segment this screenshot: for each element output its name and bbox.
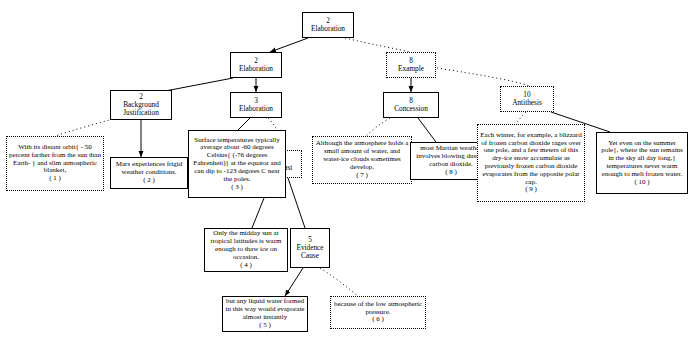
edge-background-to-leaf1 bbox=[56, 118, 116, 136]
leaf-node-1[interactable]: With its distant orbit{ - 50 percent far… bbox=[6, 136, 104, 191]
edge-elab3-to-leaf3 bbox=[238, 118, 250, 130]
node-concession-8[interactable]: 8 Concession bbox=[383, 92, 439, 118]
node-label: Elaboration bbox=[311, 25, 345, 33]
edge-evidence-to-leaf6 bbox=[320, 268, 358, 296]
leaf-text: Surface temperatures typically average a… bbox=[191, 137, 283, 184]
leaf-text: Each winter, for example, a blizzard of … bbox=[480, 132, 582, 187]
leaf-node-3[interactable]: Surface temperatures typically average a… bbox=[188, 130, 286, 198]
leaf-index: ( 10 ) bbox=[634, 179, 649, 187]
leaf-text: Only the midday sun at tropical latitude… bbox=[207, 230, 285, 261]
edge-concession-to-leaf7 bbox=[366, 118, 390, 136]
leaf-node-5[interactable]: but any liquid water formed in this way … bbox=[222, 296, 308, 332]
leaf-text: Although the atmosphere holds a small am… bbox=[315, 140, 409, 171]
leaf-text: because of the low atmospheric pressure. bbox=[333, 301, 423, 317]
leaf-index: ( 9 ) bbox=[525, 186, 537, 194]
leaf-node-7[interactable]: Although the atmosphere holds a small am… bbox=[312, 136, 412, 184]
node-example-8[interactable]: 8 Example bbox=[386, 52, 436, 78]
leaf-text: With its distant orbit{ - 50 percent far… bbox=[9, 144, 101, 175]
leaf-text: but any liquid water formed in this way … bbox=[225, 298, 305, 321]
edge-concession-to-leaf8 bbox=[418, 118, 436, 142]
node-elaboration-3[interactable]: 3 Elaboration bbox=[230, 92, 282, 118]
node-root-elaboration[interactable]: 2 Elaboration bbox=[302, 12, 354, 38]
leaf-index: ( 2 ) bbox=[143, 177, 155, 185]
edge-root-to-example bbox=[345, 38, 410, 52]
leaf-node-6[interactable]: because of the low atmospheric pressure.… bbox=[330, 296, 426, 329]
node-label: Evidence Cause bbox=[296, 244, 323, 260]
edge-evidence-to-leaf5 bbox=[285, 268, 303, 296]
node-label: Concession bbox=[394, 105, 428, 113]
node-elaboration-2[interactable]: 2 Elaboration bbox=[230, 52, 282, 78]
rst-diagram-canvas: 2 Elaboration 2 Elaboration 8 Example 2 … bbox=[0, 0, 692, 343]
leaf-index: ( 7 ) bbox=[356, 172, 368, 180]
leaf-index: ( 5 ) bbox=[259, 322, 271, 330]
edge-root-to-elab2 bbox=[270, 38, 308, 52]
leaf-text: Mars experiences frigid weather conditio… bbox=[113, 161, 185, 177]
node-background-justification[interactable]: 2 Background Justification bbox=[110, 90, 172, 120]
node-label: Background Justification bbox=[123, 101, 159, 117]
leaf-index: ( 8 ) bbox=[445, 169, 457, 177]
leaf-index: ( 1 ) bbox=[49, 175, 61, 183]
leaf-node-2[interactable]: Mars experiences frigid weather conditio… bbox=[110, 157, 188, 189]
leaf-index: ( 6 ) bbox=[372, 316, 384, 324]
leaf-node-9[interactable]: Each winter, for example, a blizzard of … bbox=[477, 124, 585, 202]
edge-example-to-antithesis bbox=[437, 68, 530, 86]
node-label: Example bbox=[398, 65, 424, 73]
node-label: Elaboration bbox=[239, 65, 273, 73]
edge-contrast-to-evidence bbox=[288, 178, 305, 228]
node-label: Elaboration bbox=[239, 105, 273, 113]
node-antithesis-10[interactable]: 10 Antithesis bbox=[500, 86, 554, 112]
leaf-index: ( 3 ) bbox=[231, 184, 243, 192]
node-label: Antithesis bbox=[512, 99, 542, 107]
leaf-text: Yet even on the summer pole{, where the … bbox=[599, 140, 685, 179]
leaf-node-4[interactable]: Only the midday sun at tropical latitude… bbox=[204, 228, 288, 272]
node-evidence-cause-5[interactable]: 5 Evidence Cause bbox=[290, 228, 330, 268]
leaf-node-10[interactable]: Yet even on the summer pole{, where the … bbox=[596, 132, 688, 194]
leaf-index: ( 4 ) bbox=[240, 262, 252, 270]
